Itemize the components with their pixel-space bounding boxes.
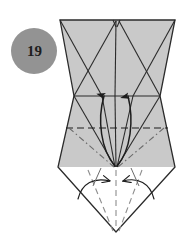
step-badge: 19 <box>11 28 58 75</box>
origami-step-figure: 19 <box>0 0 184 238</box>
lower-shaded-trapezoid <box>58 96 175 167</box>
step-number-label: 19 <box>11 28 58 75</box>
upper-shaded-trapezoid <box>60 20 175 96</box>
